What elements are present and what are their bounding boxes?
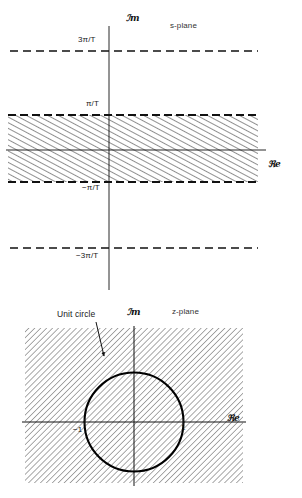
s-plane-tick-neg-3pi-over-T: −3π/T [76, 252, 98, 260]
z-plane-title: z-plane [172, 308, 199, 316]
z-plane-panel [22, 322, 246, 486]
unit-circle-label: Unit circle [57, 310, 95, 319]
z-plane-tick-label-neg-one: −1 [73, 426, 82, 434]
s-plane-real-axis-label: ℜe [268, 160, 281, 169]
s-plane-panel [6, 26, 266, 290]
s-plane-tick-pi-over-T: π/T [86, 100, 99, 108]
s-plane-imaginary-axis-label: ℐm [126, 14, 140, 23]
figure-root: ℐm s-plane 3π/T π/T −π/T −3π/T ℜe Unit c… [0, 0, 302, 498]
s-plane-tick-3pi-over-T: 3π/T [78, 36, 95, 44]
s-plane-title: s-plane [170, 22, 197, 30]
z-plane-real-axis-label: ℜe [227, 414, 240, 423]
s-plane-tick-neg-pi-over-T: −π/T [82, 184, 100, 192]
z-plane-imaginary-axis-label: ℐm [127, 308, 141, 317]
s-plane-primary-strip [8, 115, 258, 182]
figure-canvas [0, 0, 302, 498]
z-plane-tick-label-one: 1 [181, 424, 186, 432]
